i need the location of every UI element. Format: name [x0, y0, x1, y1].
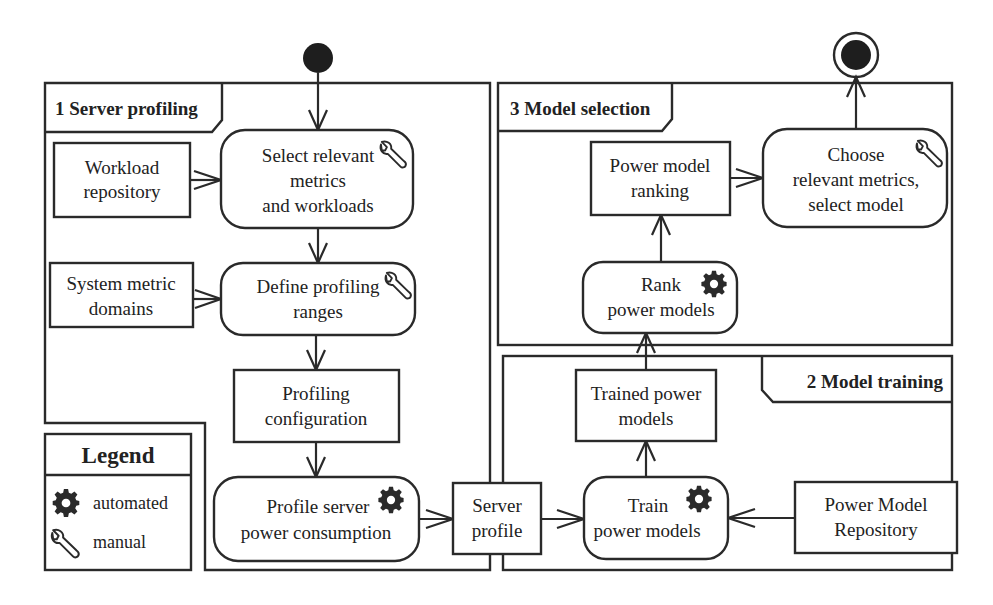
svg-text:Server: Server: [472, 495, 522, 516]
legend-label-manual: manual: [93, 532, 146, 552]
partition-label-model-training: 2 Model training: [807, 371, 944, 392]
partition-label-server-profiling: 1 Server profiling: [55, 98, 198, 119]
svg-text:Select relevant: Select relevant: [262, 145, 375, 166]
svg-text:Profiling: Profiling: [282, 383, 350, 404]
svg-text:select model: select model: [808, 194, 904, 215]
svg-text:domains: domains: [89, 298, 153, 319]
object-trained-power-models[interactable]: Trained power models: [576, 370, 716, 441]
object-workload-repository[interactable]: Workload repository: [54, 143, 190, 217]
svg-text:Repository: Repository: [834, 519, 918, 540]
svg-text:configuration: configuration: [265, 408, 368, 429]
svg-text:ranges: ranges: [293, 301, 343, 322]
svg-text:Train: Train: [628, 495, 669, 516]
gear-icon: [378, 487, 403, 514]
svg-text:System metric: System metric: [66, 273, 175, 294]
svg-text:Define profiling: Define profiling: [257, 276, 380, 297]
object-system-metric-domains[interactable]: System metric domains: [50, 263, 193, 327]
legend: Legend automated manual: [45, 434, 191, 570]
svg-text:ranking: ranking: [631, 180, 690, 201]
partition-label-model-selection: 3 Model selection: [510, 98, 651, 119]
final-node: [834, 33, 878, 77]
object-power-model-ranking[interactable]: Power model ranking: [591, 142, 730, 215]
svg-text:Power Model: Power Model: [825, 494, 928, 515]
object-server-profile[interactable]: Server profile: [453, 483, 541, 554]
gear-icon: [701, 271, 726, 298]
activity-diagram: 1 Server profiling 3 Model selection 2 M…: [0, 0, 993, 605]
svg-text:Trained power: Trained power: [591, 383, 702, 404]
svg-text:repository: repository: [83, 181, 161, 202]
action-choose-model[interactable]: Choose relevant metrics, select model: [763, 129, 947, 227]
object-power-model-repository[interactable]: Power Model Repository: [795, 482, 957, 553]
svg-text:Power model: Power model: [610, 155, 711, 176]
svg-text:Workload: Workload: [85, 157, 160, 178]
svg-text:Choose: Choose: [828, 144, 885, 165]
svg-text:power models: power models: [593, 520, 700, 541]
action-profile-server-power[interactable]: Profile server power consumption: [214, 477, 419, 561]
svg-text:relevant metrics,: relevant metrics,: [793, 169, 920, 190]
svg-text:power consumption: power consumption: [241, 522, 392, 543]
svg-text:profile: profile: [472, 520, 523, 541]
svg-text:power models: power models: [607, 299, 714, 320]
action-rank-power-models[interactable]: Rank power models: [583, 262, 737, 333]
initial-node: [303, 43, 333, 73]
gear-icon: [53, 489, 80, 517]
svg-text:and workloads: and workloads: [262, 195, 373, 216]
svg-text:models: models: [619, 408, 674, 429]
svg-text:metrics: metrics: [290, 170, 346, 191]
gear-icon: [686, 486, 711, 513]
legend-label-automated: automated: [93, 493, 168, 513]
object-profiling-configuration[interactable]: Profiling configuration: [234, 370, 399, 442]
svg-text:Profile server: Profile server: [267, 496, 371, 517]
action-train-power-models[interactable]: Train power models: [584, 477, 728, 559]
action-define-profiling-ranges[interactable]: Define profiling ranges: [221, 263, 415, 335]
svg-text:Rank: Rank: [641, 274, 682, 295]
legend-title: Legend: [82, 443, 155, 468]
action-select-relevant-metrics[interactable]: Select relevant metrics and workloads: [221, 130, 413, 228]
